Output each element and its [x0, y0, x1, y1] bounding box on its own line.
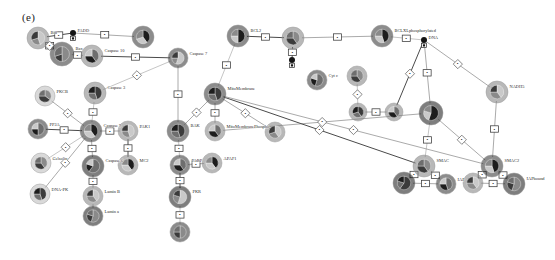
node-label: FADD	[78, 28, 90, 33]
graph-node[interactable]	[81, 45, 103, 67]
node-label: SMAC2	[505, 158, 520, 163]
node-label: MitoMembrane	[228, 86, 256, 91]
graph-node[interactable]	[503, 173, 525, 195]
graph-node[interactable]	[463, 173, 483, 193]
graph-node[interactable]	[170, 222, 190, 242]
node-badge-glyph	[72, 37, 74, 39]
graph-node[interactable]	[70, 30, 76, 41]
node-label: NADH5	[510, 84, 526, 89]
graph-node[interactable]	[486, 81, 508, 103]
graph-node-dot	[289, 57, 295, 63]
graph-node[interactable]	[28, 119, 48, 139]
node-label: DNA-PK	[52, 187, 69, 192]
graph-node[interactable]	[50, 42, 74, 66]
graph-node[interactable]	[202, 153, 222, 173]
graph-node[interactable]	[168, 48, 188, 68]
graph-node[interactable]	[436, 174, 456, 194]
node-label: PKCB	[57, 89, 69, 94]
graph-node-dot	[70, 30, 76, 36]
graph-node[interactable]	[204, 83, 226, 105]
graph-node-dot	[421, 37, 427, 43]
graph-node[interactable]	[170, 155, 190, 175]
node-label: Gelsolin	[53, 156, 69, 161]
graph-node[interactable]	[80, 120, 102, 142]
graph-node[interactable]	[167, 120, 189, 142]
graph-node[interactable]	[132, 26, 154, 48]
node-label: IAPbound	[527, 176, 546, 181]
graph-node[interactable]	[421, 37, 427, 48]
node-label: MC2	[140, 158, 149, 163]
node-label: Lamin B	[105, 189, 121, 194]
node-label: BAK	[191, 123, 201, 128]
node-label: APAF1	[224, 156, 237, 161]
node-badge-glyph	[291, 64, 293, 66]
node-label: PARP	[192, 158, 203, 163]
graph-node[interactable]	[347, 66, 367, 86]
graph-node[interactable]	[419, 101, 443, 125]
graph-node[interactable]	[349, 103, 367, 121]
graph-node[interactable]	[35, 86, 55, 106]
graph-node[interactable]	[227, 25, 249, 47]
graph-node[interactable]	[31, 153, 51, 173]
node-label: MitoMembranePhospho	[227, 124, 270, 129]
node-label: BCL2	[251, 28, 262, 33]
node-label: Bid	[51, 30, 58, 35]
node-label: Caspase 6	[106, 158, 124, 163]
graph-node[interactable]	[30, 184, 50, 204]
node-label: Caspase 7	[190, 51, 208, 56]
graph-node[interactable]	[169, 186, 191, 208]
node-label: Bax	[76, 46, 84, 51]
graph-node[interactable]	[83, 206, 103, 226]
graph-node[interactable]	[205, 121, 225, 141]
node-label: BCLXLphosphorylated	[395, 28, 437, 33]
graph-node[interactable]	[393, 172, 415, 194]
graph-node[interactable]	[413, 155, 435, 177]
graph-node[interactable]	[27, 27, 49, 49]
node-label: SMAC	[437, 158, 450, 163]
node-label: IAP	[458, 177, 466, 182]
node-label: Caspase 10	[105, 48, 126, 53]
graph-node[interactable]	[481, 155, 503, 177]
graph-node[interactable]	[307, 70, 327, 90]
node-layer	[27, 25, 525, 242]
figure-panel: (e) ▪▪▪▪▪▪▪▪▪▪▪▪▪▪▪▪▪▪▪▪▪▪▪▪▪▪▪▪▪▪▪▪▪▪▪▪…	[0, 0, 555, 260]
node-label: Caspase 9	[104, 123, 122, 128]
graph-node[interactable]	[385, 103, 403, 121]
node-badge-glyph	[423, 44, 425, 46]
node-label: PP2A	[50, 122, 61, 127]
node-label: Cyt c	[329, 73, 338, 78]
node-label: PAK1	[140, 124, 151, 129]
node-label: DNA	[429, 35, 439, 40]
graph-node[interactable]	[82, 155, 104, 177]
network-graph-canvas: ▪▪▪▪▪▪▪▪▪▪▪▪▪▪▪▪▪▪▪▪▪▪▪▪▪▪▪▪▪▪▪▪▪▪▪▪▪▪▪▪…	[0, 0, 555, 260]
graph-node[interactable]	[371, 25, 393, 47]
node-label: PKR	[193, 189, 202, 194]
graph-node[interactable]	[282, 27, 304, 49]
graph-node[interactable]	[289, 57, 295, 68]
graph-node[interactable]	[83, 186, 103, 206]
node-label: Lamin a	[105, 209, 120, 214]
graph-node[interactable]	[84, 82, 106, 104]
node-label: Caspase 3	[108, 85, 126, 90]
